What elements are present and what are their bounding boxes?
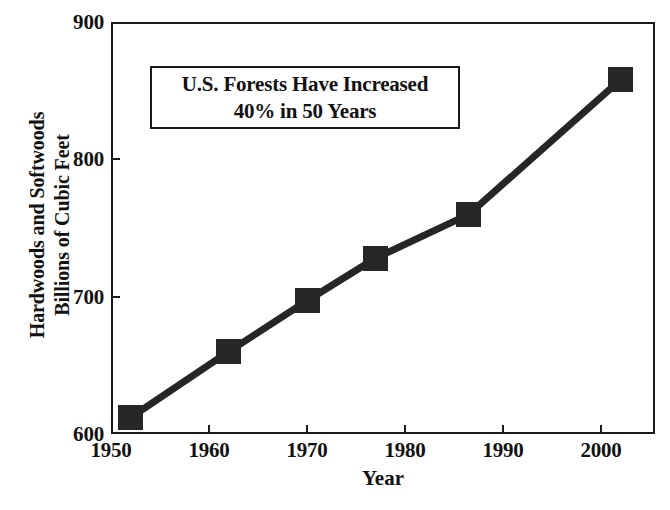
y-axis-title-line-1: Hardwoods and Softwoods [25,0,50,455]
y-axis-tick [111,158,120,160]
data-point-marker [216,339,241,364]
y-axis-title-line-2: Billions of Cubic Feet [50,0,75,455]
x-axis-tick [404,425,406,434]
annotation-line-1: U.S. Forests Have Increased [182,71,428,98]
x-axis-tick-label: 2000 [556,438,646,463]
x-axis-tick [502,425,504,434]
x-axis-tick-label: 1950 [66,438,156,463]
y-axis-tick [111,296,120,298]
x-axis-tick [306,425,308,434]
annotation-line-2: 40% in 50 Years [234,98,377,125]
annotation-callout-box: U.S. Forests Have Increased 40% in 50 Ye… [150,66,460,129]
data-point-marker [456,202,481,227]
chart-page: 600700800900195019601970198019902000 U.S… [0,0,670,510]
x-axis-tick [208,425,210,434]
data-point-marker [363,246,388,271]
x-axis-tick-label: 1960 [164,438,254,463]
x-axis-tick-label: 1990 [458,438,548,463]
data-point-marker [295,288,320,313]
x-axis-tick-label: 1980 [360,438,450,463]
x-axis-tick-label: 1970 [262,438,352,463]
data-point-marker [118,405,143,430]
data-point-marker [608,67,633,92]
x-axis-title: Year [111,466,655,491]
y-axis-title: Hardwoods and Softwoods Billions of Cubi… [25,0,75,455]
x-axis-tick [600,425,602,434]
